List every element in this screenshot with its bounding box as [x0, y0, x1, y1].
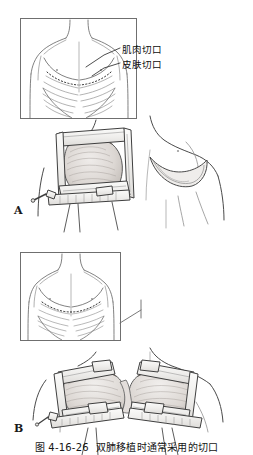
panel-b-leader-line	[120, 300, 141, 323]
figure-caption-number: 图 4-16-26	[35, 442, 89, 453]
figure-container: 肌肉切口 皮肤切口 A B 图 4-16-26双肺移植时通常采用的切口	[0, 0, 253, 455]
panel-a-retractor-arms	[64, 202, 118, 232]
panel-b-letter: B	[14, 423, 23, 434]
panel-b-inset	[21, 253, 121, 341]
annotation-muscle-incision: 肌肉切口	[122, 44, 162, 55]
panel-a-letter: A	[14, 205, 23, 216]
figure-caption-text: 双肺移植时通常采用的切口	[96, 442, 218, 453]
panel-a-inset	[21, 19, 137, 119]
skin-incision-crescent	[150, 150, 207, 187]
annotation-skin-incision: 皮肤切口	[122, 59, 162, 70]
panel-b	[21, 253, 224, 455]
figure-caption: 图 4-16-26双肺移植时通常采用的切口	[0, 441, 253, 454]
